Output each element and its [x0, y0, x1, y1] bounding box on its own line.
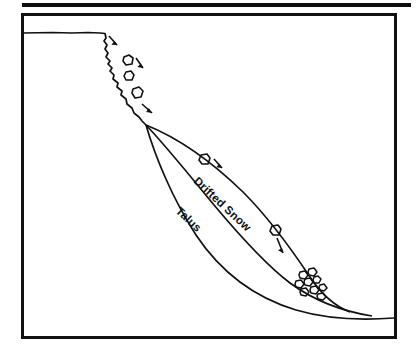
figure-border	[23, 15, 396, 338]
slope-profile-diagram: Drifted Snow Talus	[0, 0, 419, 356]
talus-label: Talus	[174, 205, 204, 234]
falling-rock-clast	[124, 71, 134, 80]
plateau-and-cliff-face-line	[23, 33, 146, 126]
rockfall-motion-arrow	[109, 36, 117, 45]
rockfall-motion-arrow	[277, 238, 283, 253]
falling-rock-clast	[132, 87, 143, 98]
snow-talus-contact-line	[146, 125, 372, 316]
rockfall-motion-arrow	[142, 104, 152, 113]
rockfall-motion-arrow	[136, 58, 143, 68]
falling-rock-clast	[123, 55, 133, 65]
figure-root: Drifted Snow Talus	[0, 0, 419, 356]
